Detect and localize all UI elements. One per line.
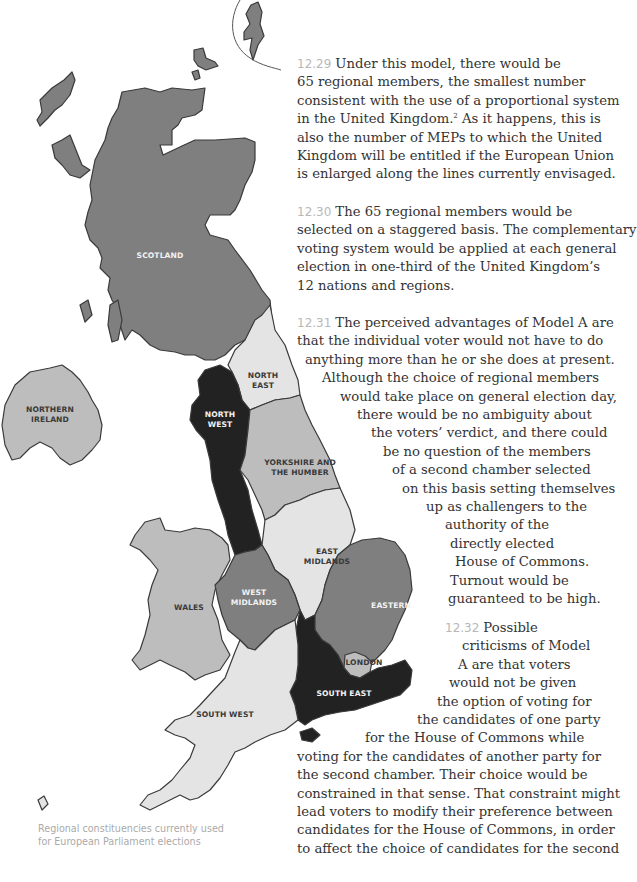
paragraph-number: 12.30 bbox=[297, 205, 331, 219]
paragraph-12-29: 12.29Under this model, there would be 65… bbox=[297, 55, 619, 184]
map-caption: Regional constituencies currently used f… bbox=[38, 822, 224, 848]
region-orkney bbox=[192, 48, 218, 80]
paragraph-number: 12.31 bbox=[297, 316, 331, 330]
paragraph-12-30: 12.30The 65 regional members would be se… bbox=[297, 203, 637, 295]
paragraph-12-31: 12.31The perceived advantages of Model A… bbox=[0, 314, 617, 609]
region-skye bbox=[52, 135, 90, 178]
region-shetland bbox=[244, 2, 264, 60]
region-western-isles bbox=[37, 72, 75, 126]
paragraph-number: 12.32 bbox=[445, 621, 479, 635]
region-label-scotland: SCOTLAND bbox=[137, 251, 184, 260]
paragraph-number: 12.29 bbox=[297, 57, 331, 71]
